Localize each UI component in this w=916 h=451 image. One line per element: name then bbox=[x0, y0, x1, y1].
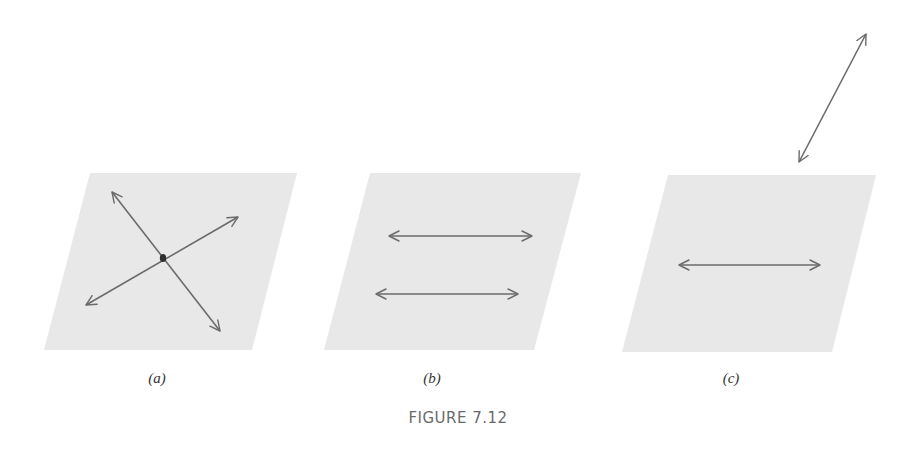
panel-label-a: (a) bbox=[148, 370, 166, 387]
plane-c bbox=[622, 175, 876, 352]
panel-label-c: (c) bbox=[723, 370, 740, 387]
panel-b-parallel-lines bbox=[324, 173, 581, 350]
panel-label-b: (b) bbox=[423, 370, 441, 387]
panel-a-intersecting-lines bbox=[44, 173, 297, 350]
plane-a bbox=[44, 173, 297, 350]
figure-caption: FIGURE 7.12 bbox=[408, 409, 507, 427]
figure-canvas bbox=[0, 0, 916, 451]
panel-c-skew-lines bbox=[622, 34, 876, 352]
intersection-point-icon bbox=[160, 254, 166, 262]
plane-b bbox=[324, 173, 581, 350]
double-arrow-line-c-2 bbox=[799, 34, 866, 162]
